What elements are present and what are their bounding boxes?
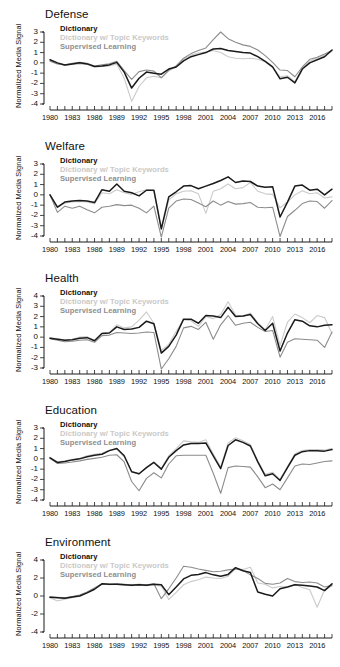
- panel-environment: EnvironmentDictionaryDictionary w/ Topic…: [0, 536, 340, 667]
- series-line-supervised: [50, 455, 332, 494]
- plot-area: [0, 8, 340, 140]
- y-axis-spine: [42, 164, 44, 236]
- series-line-dictionary: [50, 48, 332, 88]
- media-signal-figure: DefenseDictionaryDictionary w/ Topic Key…: [0, 0, 340, 667]
- y-axis-spine: [42, 296, 44, 368]
- panel-defense: DefenseDictionaryDictionary w/ Topic Key…: [0, 8, 340, 140]
- series-line-keywords: [50, 51, 332, 102]
- series-line-dictionary: [50, 307, 332, 353]
- plot-area: [0, 272, 340, 404]
- plot-area: [0, 404, 340, 536]
- panel-education: EducationDictionaryDictionary w/ Topic K…: [0, 404, 340, 536]
- plot-area: [0, 140, 340, 272]
- series-line-keywords: [50, 183, 332, 230]
- y-axis-spine: [42, 32, 44, 104]
- series-line-dictionary: [50, 568, 332, 599]
- series-line-dictionary: [50, 177, 332, 229]
- series-line-keywords: [50, 567, 332, 607]
- panel-health: HealthDictionaryDictionary w/ Topic Keyw…: [0, 272, 340, 404]
- series-line-supervised: [50, 566, 332, 598]
- series-line-supervised: [50, 316, 332, 369]
- y-axis-spine: [42, 428, 44, 500]
- series-line-supervised: [50, 195, 332, 237]
- plot-area: [0, 536, 340, 667]
- panel-welfare: WelfareDictionaryDictionary w/ Topic Key…: [0, 140, 340, 272]
